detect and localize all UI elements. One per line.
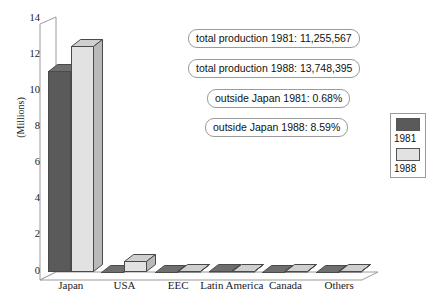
annotation-outside-1988: outside Japan 1988: 8.59% [205, 118, 348, 137]
y-tick-label: 12 [18, 49, 40, 59]
annotation-outside-1981: outside Japan 1981: 0.68% [207, 89, 350, 108]
x-tick-label-others: Others [294, 279, 384, 291]
bar-others-1988 [339, 264, 371, 272]
legend-label-1981: 1981 [394, 133, 426, 144]
bar-usa-1988 [124, 254, 156, 272]
bar-eec-1988 [178, 264, 210, 272]
legend-swatch-1981 [396, 118, 420, 131]
bar-latin-america-1988 [232, 264, 264, 272]
y-axis-title: (Millions) [15, 80, 26, 156]
y-tick-label: 0 [18, 266, 40, 276]
bar-japan-1988 [71, 39, 103, 272]
annotation-total-1988: total production 1988: 13,748,395 [188, 59, 360, 78]
bar-canada-1988 [285, 264, 317, 272]
legend: 1981 1988 [390, 113, 426, 178]
annotation-total-1981: total production 1981: 11,255,567 [188, 29, 360, 48]
bar-chart: 14 12 10 8 6 4 2 0 (Millions) JapanUSAEE… [0, 0, 445, 305]
y-tick-label: 14 [18, 13, 40, 23]
y-tick-label: 4 [18, 193, 40, 203]
legend-swatch-1988 [396, 148, 420, 161]
y-tick-label: 6 [18, 157, 40, 167]
legend-label-1988: 1988 [394, 163, 426, 174]
y-tick-label: 2 [18, 229, 40, 239]
